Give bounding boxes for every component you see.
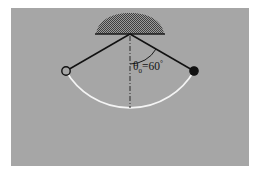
pendulum-diagram: θ0=60° [0, 0, 262, 176]
angle-label-degree: ° [160, 59, 163, 68]
bob-filled-right [190, 67, 198, 75]
bob-open-left [62, 67, 70, 75]
figure-root: θ0=60° [0, 0, 262, 176]
angle-label-value: 60 [149, 60, 161, 72]
